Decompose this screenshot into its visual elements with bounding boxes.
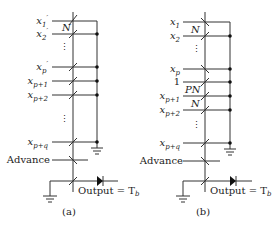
input-label: x2 — [170, 30, 181, 44]
ground-icon — [176, 196, 190, 202]
ellipsis: ⋮ — [192, 44, 201, 54]
ellipsis: ⋮ — [60, 114, 69, 124]
input-label: xp+1 — [160, 90, 180, 104]
weight-label: PN — [184, 84, 202, 95]
ellipsis: ⋮ — [192, 120, 201, 130]
caption-b: (b) — [196, 206, 210, 217]
ellipsis: ⋮ — [60, 42, 69, 52]
output-label: Output = Tb — [78, 185, 140, 198]
weight-label: N — [190, 24, 201, 35]
ground-icon — [91, 148, 103, 154]
input-label: xp — [170, 63, 181, 77]
input-label: xp+1 — [28, 75, 48, 89]
weight-label: N — [61, 22, 72, 33]
input-label: xp′ — [36, 60, 48, 75]
weight-label: N — [190, 98, 201, 109]
input-label: x1 — [170, 16, 180, 30]
input-label: x2′ — [36, 27, 48, 42]
caption-a: (a) — [62, 206, 76, 217]
input-label: xp+q — [160, 137, 181, 151]
input-label: xp+2 — [160, 104, 181, 118]
advance-label: Advance — [139, 155, 183, 166]
output-label: Output = Tb — [210, 185, 272, 198]
threshold-logic-diagrams: x1′ x2′ xp′ xp+1 xp+2 xp+q N ⋮ ⋮ Advance… — [0, 0, 276, 230]
advance-label: Advance — [6, 154, 50, 165]
diagram-a: x1′ x2′ xp′ xp+1 xp+2 xp+q N ⋮ ⋮ Advance… — [6, 12, 140, 217]
input-label: 1 — [174, 76, 180, 87]
ground-icon — [43, 196, 57, 202]
input-label: xp+2 — [28, 89, 49, 103]
diagram-b: x1 x2 xp 1 xp+1 xp+2 xp+q N PN N ⋮ ⋮ Adv… — [139, 12, 272, 217]
input-label: xp+q — [28, 136, 49, 150]
ground-icon — [224, 149, 236, 155]
